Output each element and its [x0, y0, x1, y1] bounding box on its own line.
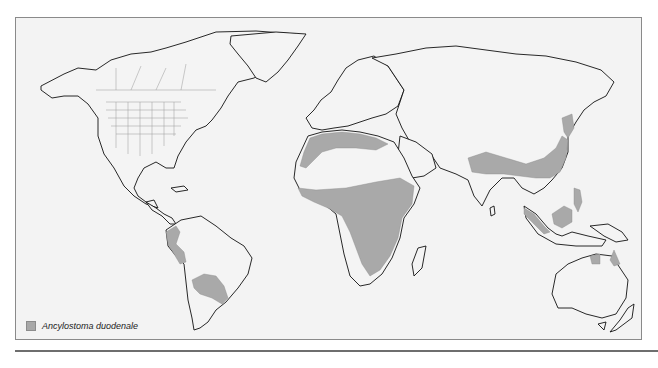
sri-lanka — [490, 206, 495, 216]
madagascar — [412, 246, 426, 276]
endemic-borneo — [552, 206, 572, 228]
legend-swatch-endemic — [26, 321, 36, 331]
endemic-philippines — [574, 188, 582, 212]
world-map — [16, 18, 641, 339]
legend-label: Ancylostoma duodenale — [42, 321, 138, 331]
page-footer-blank — [15, 352, 658, 368]
endemic-north-australia — [590, 254, 600, 264]
central-america — [146, 202, 176, 224]
tasmania — [598, 322, 606, 330]
caribbean-islands — [171, 186, 188, 192]
map-frame: Ancylostoma duodenale — [15, 17, 642, 340]
map-legend: Ancylostoma duodenale — [26, 321, 138, 331]
